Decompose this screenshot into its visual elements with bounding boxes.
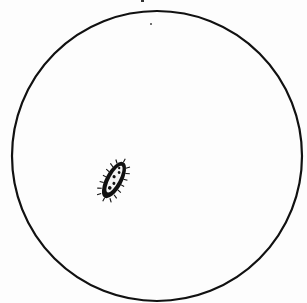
microscope-field-diagram — [0, 0, 307, 303]
top-edge-mark — [141, 0, 144, 2]
speck-mark — [150, 23, 152, 25]
